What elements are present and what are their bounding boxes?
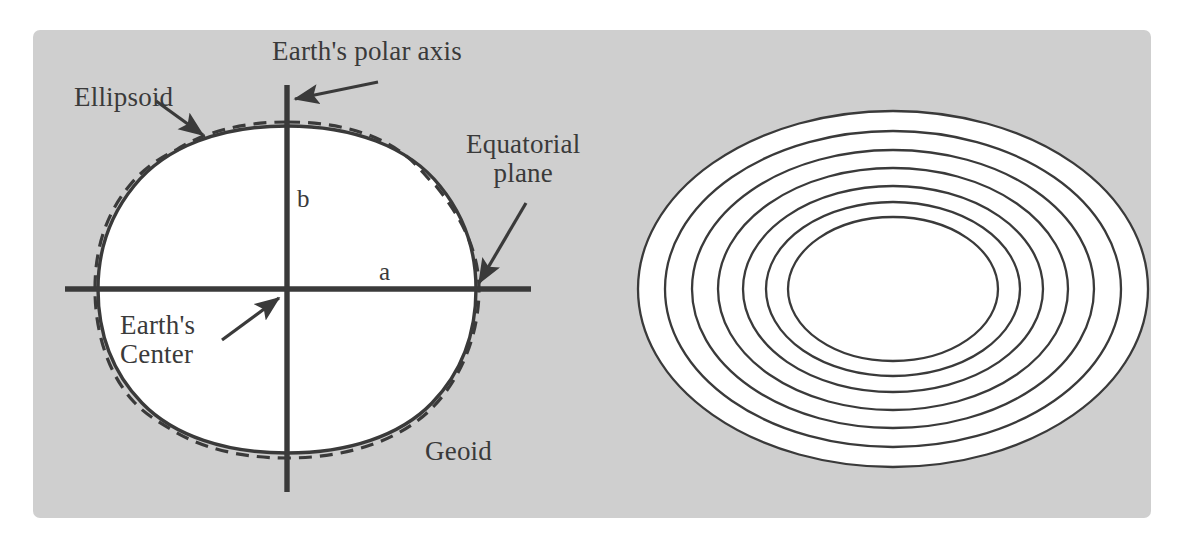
label-equatorial-line2: plane: [493, 158, 552, 188]
label-ellipsoid: Ellipsoid: [74, 83, 173, 112]
equatorial-plane-arrow: [479, 203, 526, 283]
left-diagram: [65, 82, 531, 492]
ellipse-ring-7: [788, 217, 998, 361]
right-diagram: [638, 111, 1148, 467]
polar-axis-arrow: [295, 82, 378, 99]
figure-page: Earth's polar axis Ellipsoid Equatorialp…: [0, 0, 1180, 558]
label-geoid: Geoid: [425, 437, 492, 466]
label-semi-major-axis-a: a: [379, 258, 390, 285]
figure-graphics: [0, 0, 1180, 558]
label-earths-polar-axis: Earth's polar axis: [272, 37, 462, 66]
label-earths-center-line1: Earth's: [120, 310, 195, 340]
label-equatorial-line1: Equatorial: [466, 129, 580, 159]
label-equatorial-plane: Equatorialplane: [466, 130, 580, 188]
label-semi-minor-axis-b: b: [297, 185, 310, 212]
label-earths-center-line2: Center: [120, 339, 193, 369]
label-earths-center: Earth'sCenter: [120, 311, 195, 369]
